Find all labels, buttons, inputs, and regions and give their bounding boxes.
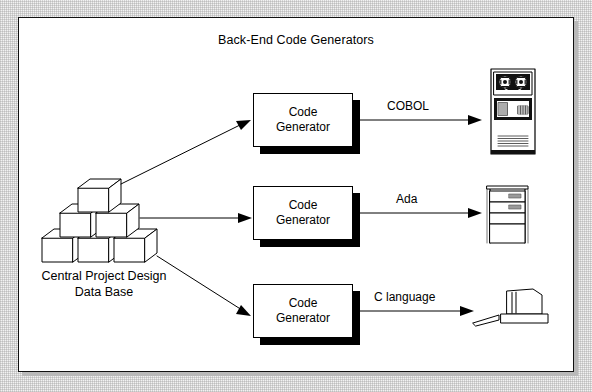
- cube-stack-icon: [42, 179, 157, 262]
- arrow-cg-ada-to-minicomputer: [354, 208, 482, 218]
- arrow-cg-cobol-to-mainframe: [354, 115, 482, 125]
- process-node-box: Code Generator: [253, 284, 353, 338]
- process-label-line1: Code: [289, 105, 318, 120]
- arrow-db-to-cg-cobol: [121, 120, 251, 184]
- process-label-line1: Code: [289, 198, 318, 213]
- data-store-caption-line1: Central Project Design: [14, 268, 194, 284]
- arrow-db-to-cg-ada: [140, 213, 252, 223]
- process-label-line1: Code: [289, 296, 318, 311]
- process-label-line2: Generator: [276, 311, 330, 326]
- flow-label-ada: Ada: [396, 192, 417, 206]
- workstation-icon: [473, 289, 548, 326]
- flow-label-c: C language: [374, 290, 435, 304]
- process-node-box: Code Generator: [253, 93, 353, 147]
- arrow-cg-c-to-workstation: [354, 306, 474, 316]
- process-node-cobol: Code Generator: [253, 93, 353, 147]
- process-label-line2: Generator: [276, 120, 330, 135]
- process-label-line2: Generator: [276, 213, 330, 228]
- flow-label-cobol: COBOL: [387, 99, 429, 113]
- diagram-page: Back-End Code Generators: [0, 0, 592, 392]
- process-node-ada: Code Generator: [253, 186, 353, 240]
- data-store-caption-line2: Data Base: [14, 284, 194, 300]
- process-node-c: Code Generator: [253, 284, 353, 338]
- cube-top: [78, 179, 121, 212]
- process-node-box: Code Generator: [253, 186, 353, 240]
- minicomputer-tower-icon: [487, 186, 528, 243]
- data-store-caption: Central Project Design Data Base: [14, 268, 194, 301]
- mainframe-icon: [491, 69, 535, 154]
